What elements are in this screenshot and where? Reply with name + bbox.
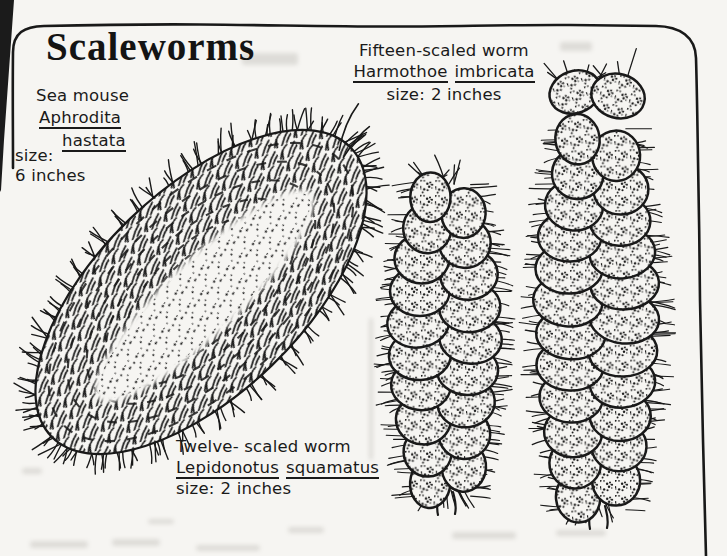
sea-mouse-size-value: 6 inches <box>15 166 86 186</box>
sea-mouse-label: Sea mouse Aphrodita hastata <box>36 86 129 151</box>
page-title: Scaleworms <box>46 24 255 69</box>
sea-mouse-size: size: 6 inches <box>15 146 86 186</box>
fifteen-size-value: 2 inches <box>431 85 502 104</box>
fifteen-genus: Harmothoe <box>353 62 447 83</box>
twelve-scaled-worm-label: Twelve- scaled worm Lepidonotussquamatus… <box>176 436 379 499</box>
fifteen-size-label: size: <box>386 85 425 104</box>
twelve-size-label: size: <box>176 479 215 498</box>
sea-mouse-common-name: Sea mouse <box>36 86 129 106</box>
twelve-genus: Lepidonotus <box>176 458 279 479</box>
twelve-size-value: 2 inches <box>221 479 292 498</box>
twelve-species: squamatus <box>286 458 379 479</box>
fifteen-common-name: Fifteen-scaled worm <box>336 41 552 60</box>
sea-mouse-genus: Aphrodita <box>39 108 121 129</box>
fifteen-species: imbricata <box>455 62 535 83</box>
sea-mouse-size-label: size: <box>15 146 86 166</box>
fifteen-scaled-worm-label: Fifteen-scaled worm Harmothoeimbricata s… <box>336 41 552 104</box>
book-page: Scaleworms Sea mouse Aphrodita hastata s… <box>0 0 727 556</box>
twelve-common-name: Twelve- scaled worm <box>176 436 379 457</box>
